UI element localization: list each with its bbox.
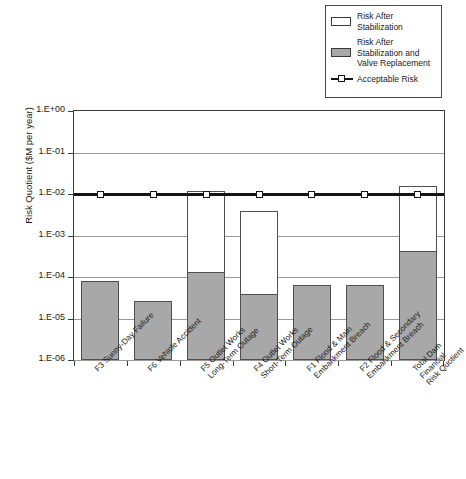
y-axis-tick-label: 1.E-03 <box>38 230 65 239</box>
y-axis-tick <box>68 277 74 278</box>
y-axis-tick <box>68 111 74 112</box>
acceptable-risk-marker <box>361 191 368 198</box>
acceptable-risk-marker <box>150 191 157 198</box>
legend-item-label: Acceptable Risk <box>357 74 418 85</box>
y-axis-tick-label: 1.E-01 <box>38 147 65 156</box>
y-axis-tick-label: 1.E-06 <box>38 354 65 363</box>
y-axis-tick <box>68 319 74 320</box>
y-axis-tick <box>68 236 74 237</box>
y-axis-tick-label: 1.E+00 <box>36 105 65 114</box>
y-axis-tick-label: 1.E-05 <box>38 313 65 322</box>
bar-group <box>81 111 119 360</box>
y-axis-tick-labels: 1.E+001.E-011.E-021.E-031.E-041.E-051.E-… <box>0 110 65 359</box>
acceptable-risk-marker <box>414 191 421 198</box>
acceptable-risk-marker <box>203 191 210 198</box>
bar-segment-risk-after-stabilization <box>240 211 278 294</box>
chart-legend: Risk After Stabilization Risk After Stab… <box>325 5 442 98</box>
x-axis-tick-labels: F3 Sunny-Day FailureF6 Vehicle AccidentF… <box>73 359 461 479</box>
line-marker-swatch-icon <box>331 74 357 83</box>
bar-segment-risk-after-stabilization <box>187 191 225 274</box>
legend-item-label: Risk After Stabilization <box>357 11 403 32</box>
legend-item-label: Risk After Stabilization and Valve Repla… <box>357 37 430 69</box>
plot-area <box>73 110 445 361</box>
acceptable-risk-marker <box>97 191 104 198</box>
legend-item-acceptable-risk: Acceptable Risk <box>331 74 437 85</box>
acceptable-risk-marker <box>308 191 315 198</box>
y-axis-tick <box>68 153 74 154</box>
white-box-swatch-icon <box>331 17 357 26</box>
gray-box-swatch-icon <box>331 48 357 57</box>
y-axis-tick-label: 1.E-02 <box>38 188 65 197</box>
legend-item-risk-after-stabilization: Risk After Stabilization <box>331 11 437 32</box>
acceptable-risk-marker <box>256 191 263 198</box>
legend-item-risk-after-stabilization-and-valve-replacement: Risk After Stabilization and Valve Repla… <box>331 37 437 69</box>
y-axis-tick-label: 1.E-04 <box>38 271 65 280</box>
